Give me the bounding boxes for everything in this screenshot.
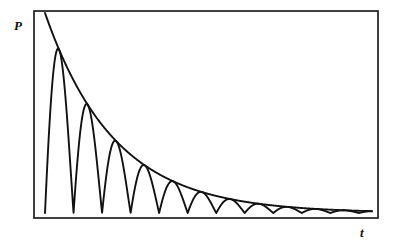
damped-oscillation-chart xyxy=(0,0,395,247)
plot-frame xyxy=(34,11,378,218)
figure-container: P t xyxy=(0,0,395,247)
